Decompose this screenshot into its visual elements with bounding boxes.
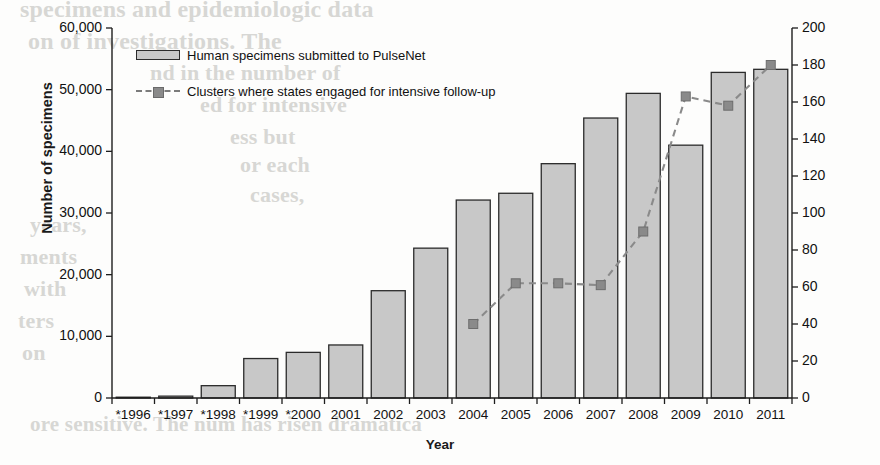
y-axis-right-tick-label: 120: [802, 167, 825, 183]
y-axis-right-tick-label: 200: [802, 19, 825, 35]
x-axis-tick-label: *2000: [282, 407, 325, 422]
y-axis-right-tick-label: 160: [802, 93, 825, 109]
cluster-marker: [766, 61, 775, 70]
x-axis-tick-label: 2010: [707, 407, 750, 422]
bar: [201, 386, 235, 398]
y-axis-right-tick-label: 80: [802, 241, 818, 257]
bar-swatch-icon: [136, 50, 180, 60]
y-axis-left-tick-label: 30,000: [8, 204, 102, 220]
x-axis-tick-label: *1998: [197, 407, 240, 422]
cluster-marker: [724, 101, 733, 110]
x-axis-tick-label: 2008: [622, 407, 665, 422]
cluster-marker: [511, 279, 520, 288]
bar: [371, 291, 405, 398]
x-axis-tick-label: 2007: [580, 407, 623, 422]
cluster-marker: [469, 320, 478, 329]
x-axis-tick-label: 2006: [537, 407, 580, 422]
y-axis-right-tick-label: 60: [802, 278, 818, 294]
chart-legend: Human specimens submitted to PulseNet Cl…: [136, 44, 496, 116]
x-axis-title: Year: [0, 437, 880, 452]
bar: [711, 72, 745, 398]
y-axis-left-tick-label: 50,000: [8, 81, 102, 97]
y-axis-right-tick-label: 40: [802, 315, 818, 331]
y-axis-left-tick-label: 0: [8, 389, 102, 405]
x-axis-tick-label: *1996: [112, 407, 155, 422]
legend-item-line: Clusters where states engaged for intens…: [136, 80, 496, 102]
y-axis-right-tick-label: 180: [802, 56, 825, 72]
y-axis-left-tick-label: 60,000: [8, 19, 102, 35]
bar: [584, 118, 618, 398]
x-axis-tick-label: *1999: [240, 407, 283, 422]
y-axis-right-tick-label: 140: [802, 130, 825, 146]
bar: [754, 69, 788, 398]
cluster-marker: [681, 92, 690, 101]
cluster-marker: [639, 227, 648, 236]
x-axis-tick-label: 2005: [495, 407, 538, 422]
y-axis-left-title: Number of specimens: [39, 63, 55, 253]
legend-label: Human specimens submitted to PulseNet: [187, 48, 425, 63]
x-axis-tick-label: 2001: [325, 407, 368, 422]
bar: [456, 200, 490, 398]
y-axis-right-tick-label: 0: [802, 389, 810, 405]
legend-label: Clusters where states engaged for intens…: [187, 84, 496, 99]
y-axis-left-tick-label: 20,000: [8, 266, 102, 282]
bar: [286, 352, 320, 398]
dashed-line-square-marker-icon: [136, 85, 180, 97]
bar: [244, 359, 278, 398]
cluster-marker: [554, 279, 563, 288]
legend-item-bars: Human specimens submitted to PulseNet: [136, 44, 496, 66]
y-axis-right-tick-label: 20: [802, 352, 818, 368]
x-axis-tick-label: *1997: [155, 407, 198, 422]
x-axis-tick-label: 2009: [665, 407, 708, 422]
y-axis-right-tick-label: 100: [802, 204, 825, 220]
bar: [669, 145, 703, 398]
x-axis-tick-label: 2003: [410, 407, 453, 422]
x-axis-tick-label: 2002: [367, 407, 410, 422]
y-axis-left-tick-label: 10,000: [8, 327, 102, 343]
y-axis-left-tick-label: 40,000: [8, 142, 102, 158]
x-axis-tick-label: 2004: [452, 407, 495, 422]
bar: [329, 345, 363, 398]
cluster-marker: [596, 281, 605, 290]
chart-figure: 010,00020,00030,00040,00050,00060,000 02…: [0, 0, 880, 465]
x-axis-tick-label: 2011: [750, 407, 793, 422]
bar: [414, 248, 448, 398]
bar-series: [116, 69, 788, 398]
